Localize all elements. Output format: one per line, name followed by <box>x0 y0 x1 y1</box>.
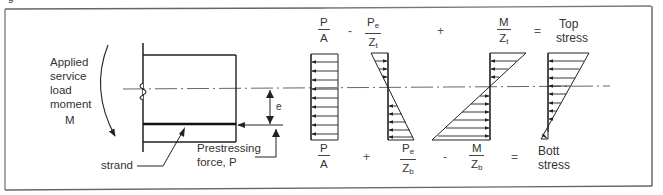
bottom-operator-minus: - <box>443 150 447 164</box>
stress-diagram-uniform <box>311 54 338 140</box>
bottom-operator-equals: = <box>511 150 518 164</box>
top-operator-minus: - <box>348 24 352 38</box>
prestress-label-line-2: force, P <box>197 156 237 169</box>
bottom-term-m-over-zb: M Zb <box>469 142 484 174</box>
moment-label-line-2: service <box>50 70 86 83</box>
moment-label-line-4: moment <box>50 98 92 111</box>
moment-label-line-3: load <box>50 84 72 97</box>
top-stress-label-line-2: stress <box>556 32 588 45</box>
bottom-stress-label-line-1: Bott <box>538 145 559 158</box>
centroid-axis <box>123 86 610 89</box>
moment-label-line-1: Applied <box>50 56 88 69</box>
stress-diagram-eccentric <box>371 53 414 140</box>
top-stress-label-line-1: Top <box>559 18 578 31</box>
strand-leader <box>137 127 185 166</box>
top-term-p-over-a: P A <box>318 16 330 44</box>
top-operator-equals: = <box>534 24 541 38</box>
prestress-label-line-1: Prestressing <box>197 142 261 155</box>
stress-diagram-moment <box>432 53 526 140</box>
top-term-pe-over-zt: Pe Zt <box>365 16 381 52</box>
bottom-operator-plus: + <box>363 150 370 164</box>
moment-arrow-icon <box>100 45 115 136</box>
eccentricity-label: e <box>276 100 282 113</box>
break-mark-icon <box>140 83 146 100</box>
bottom-stress-label-line-2: stress <box>538 159 570 172</box>
strand-label: strand <box>101 159 133 172</box>
caption-fragment: g <box>8 0 14 4</box>
bottom-term-pe-over-zb: Pe Zb <box>400 142 416 178</box>
bottom-term-p-over-a: P A <box>318 142 330 170</box>
top-term-m-over-zt: M Zt <box>497 16 511 48</box>
top-operator-plus: + <box>437 24 444 38</box>
stress-diagram-resultant <box>541 53 589 139</box>
beam-section <box>140 43 236 152</box>
moment-symbol: M <box>65 114 75 127</box>
